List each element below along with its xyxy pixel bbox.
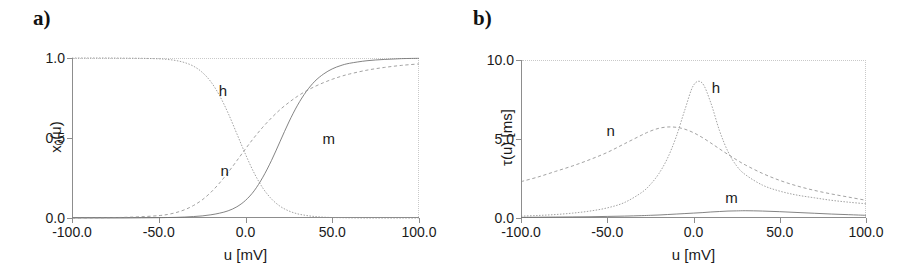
y-tick-label: 5.0 bbox=[495, 131, 514, 147]
panel-a-label: a) bbox=[33, 6, 51, 31]
curve-label-m-a: m bbox=[323, 130, 336, 147]
y-tick-mark bbox=[516, 139, 521, 140]
x-axis-label-a: u [mV] bbox=[224, 246, 267, 263]
x-tick-label: -50.0 bbox=[591, 224, 623, 240]
x-tick-label: 100.0 bbox=[848, 224, 883, 240]
x-tick-label: -100.0 bbox=[501, 224, 541, 240]
x-tick-mark bbox=[332, 218, 333, 223]
x-tick-label: 100.0 bbox=[401, 224, 436, 240]
curve-label-h-a: h bbox=[219, 82, 227, 99]
curve-label-h-b: h bbox=[712, 78, 720, 95]
x-tick-label: 0.0 bbox=[684, 224, 703, 240]
panel-b-label: b) bbox=[473, 6, 492, 31]
x-tick-mark bbox=[419, 218, 420, 223]
curve-m-a bbox=[72, 58, 419, 218]
y-tick-label: 1.0 bbox=[46, 50, 65, 66]
curve-n-a bbox=[72, 64, 419, 218]
x-tick-mark bbox=[607, 218, 608, 223]
x-axis-label-b: u [mV] bbox=[672, 246, 715, 263]
x-tick-mark bbox=[521, 218, 522, 223]
x-tick-mark bbox=[694, 218, 695, 223]
y-tick-label: 0.5 bbox=[46, 130, 65, 146]
plot-area-a: x0(u) u [mV] 0.00.51.0 -100.0-50.00.050.… bbox=[72, 58, 419, 218]
curve-label-m-b: m bbox=[725, 189, 738, 206]
curve-h-b bbox=[521, 81, 866, 216]
y-tick-label: 10.0 bbox=[487, 52, 514, 68]
x-tick-mark bbox=[866, 218, 867, 223]
x-tick-label: 50.0 bbox=[319, 224, 346, 240]
curves-b bbox=[521, 60, 866, 218]
x-tick-label: 0.0 bbox=[236, 224, 255, 240]
curves-a bbox=[72, 58, 419, 218]
panel-a: a) x0(u) u [mV] 0.00.51.0 -100.0-50.00.0… bbox=[0, 0, 449, 276]
x-tick-mark bbox=[246, 218, 247, 223]
y-tick-mark bbox=[516, 60, 521, 61]
curve-n-b bbox=[521, 127, 866, 200]
y-tick-mark bbox=[67, 58, 72, 59]
x-tick-mark bbox=[780, 218, 781, 223]
x-tick-label: 50.0 bbox=[766, 224, 793, 240]
curve-label-n-a: n bbox=[221, 162, 229, 179]
plot-area-b: τ(u) [ms] u [mV] 0.05.010.0 -100.0-50.00… bbox=[521, 60, 866, 218]
panel-b: b) τ(u) [ms] u [mV] 0.05.010.0 -100.0-50… bbox=[449, 0, 898, 276]
curve-m-b bbox=[521, 211, 866, 218]
curve-label-n-b: n bbox=[607, 121, 615, 138]
x-tick-label: -100.0 bbox=[52, 224, 92, 240]
x-tick-label: -50.0 bbox=[143, 224, 175, 240]
x-tick-mark bbox=[72, 218, 73, 223]
x-tick-mark bbox=[159, 218, 160, 223]
curve-h-a bbox=[72, 58, 419, 218]
y-tick-mark bbox=[67, 138, 72, 139]
